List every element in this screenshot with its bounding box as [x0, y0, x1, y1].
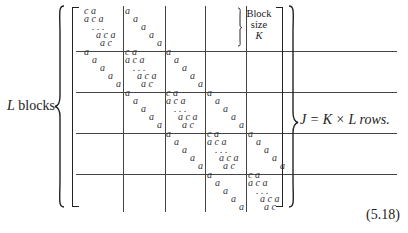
offdiag-entry: a: [166, 48, 171, 56]
offdiag-entry: a: [190, 154, 195, 162]
offdiag-entry: a: [190, 72, 195, 80]
offdiag-entry: a: [223, 187, 228, 195]
diag-entry: a c: [182, 121, 194, 129]
offdiag-entry: a: [149, 31, 154, 39]
offdiag-entry: a: [256, 138, 261, 146]
offdiag-entry: a: [248, 130, 253, 138]
offdiag-entry: a: [84, 48, 89, 56]
left-label-text: blocks: [15, 98, 55, 113]
block-note-line3: K: [242, 30, 276, 41]
offdiag-entry: a: [215, 179, 220, 187]
diag-entry: a c: [264, 203, 276, 211]
offdiag-entry: a: [264, 146, 269, 154]
block-note-line1: Block: [242, 8, 276, 19]
block-divider-h4: [76, 174, 397, 175]
offdiag-entry: a: [215, 97, 220, 105]
offdiag-entry: a: [125, 7, 130, 15]
block-divider-h3: [76, 133, 397, 134]
offdiag-entry: a: [125, 89, 130, 97]
offdiag-entry: a: [149, 113, 154, 121]
block-divider-v3: [205, 6, 206, 212]
left-label: L blocks: [7, 98, 55, 114]
offdiag-entry: a: [223, 105, 228, 113]
equation-number: (5.18): [366, 207, 400, 223]
offdiag-entry: a: [182, 64, 187, 72]
offdiag-entry: a: [116, 80, 121, 88]
offdiag-entry: a: [198, 162, 203, 170]
block-matrix: [82, 6, 387, 206]
offdiag-entry: a: [157, 121, 162, 129]
offdiag-entry: a: [166, 130, 171, 138]
offdiag-entry: a: [239, 121, 244, 129]
offdiag-entry: a: [182, 146, 187, 154]
offdiag-entry: a: [174, 56, 179, 64]
offdiag-entry: a: [231, 113, 236, 121]
diag-entry: a c: [223, 162, 235, 170]
offdiag-entry: a: [174, 138, 179, 146]
offdiag-entry: a: [92, 56, 97, 64]
offdiag-entry: a: [141, 23, 146, 31]
offdiag-entry: a: [280, 162, 285, 170]
left-label-var: L: [7, 98, 15, 113]
left-matrix-bracket: [72, 7, 79, 207]
right-curly-brace-icon: [287, 4, 299, 209]
offdiag-entry: a: [108, 72, 113, 80]
offdiag-entry: a: [207, 89, 212, 97]
offdiag-entry: a: [157, 39, 162, 47]
diag-entry: a c: [100, 39, 112, 47]
offdiag-entry: a: [133, 97, 138, 105]
offdiag-entry: a: [133, 15, 138, 23]
offdiag-entry: a: [207, 171, 212, 179]
block-size-note: Block size K: [242, 8, 276, 41]
offdiag-entry: a: [239, 203, 244, 211]
offdiag-entry: a: [100, 64, 105, 72]
block-divider-v1: [123, 6, 124, 212]
offdiag-entry: a: [198, 80, 203, 88]
right-matrix-bracket: [276, 7, 283, 207]
block-divider-v2: [165, 6, 166, 212]
left-curly-brace-icon: [54, 4, 66, 209]
right-label: J = K × L rows.: [300, 112, 390, 128]
offdiag-entry: a: [272, 154, 277, 162]
offdiag-entry: a: [231, 195, 236, 203]
offdiag-entry: a: [141, 105, 146, 113]
diag-entry: a c: [141, 80, 153, 88]
block-note-line2: size: [242, 19, 276, 30]
